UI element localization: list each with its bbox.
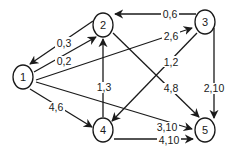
node-label-2: 2 (100, 19, 106, 31)
edge-label-1-2: 0,2 (57, 55, 72, 67)
edge-2-5 (113, 33, 199, 117)
node-2: 2 (93, 13, 113, 37)
node-label-3: 3 (202, 16, 208, 28)
edge-label-4-2: 1,3 (97, 81, 112, 93)
node-label-5: 5 (202, 124, 208, 136)
edge-label-4-5: 4,10 (159, 134, 180, 146)
edge-label-3-5: 2,10 (204, 82, 225, 94)
node-5: 5 (195, 118, 215, 142)
node-4: 4 (93, 118, 113, 142)
edge-label-3-2: 0,6 (163, 8, 178, 20)
node-label-1: 1 (20, 71, 26, 83)
directed-graph: 0,3 0,2 0,6 2,6 1,2 4,8 2,10 1,3 4,6 3,1… (0, 0, 237, 155)
edge-label-1-4: 4,6 (49, 101, 64, 113)
edge-label-2-5: 4,8 (164, 82, 179, 94)
node-1: 1 (13, 65, 33, 89)
edge-label-2-1: 0,3 (57, 37, 72, 49)
node-3: 3 (195, 10, 215, 34)
edges (30, 14, 214, 139)
edge-3-4 (112, 33, 197, 121)
edge-label-1-3: 2,6 (164, 30, 179, 42)
edge-label-1-5: 3,10 (157, 121, 178, 133)
node-label-4: 4 (100, 124, 106, 136)
edge-label-3-4: 1,2 (164, 56, 179, 68)
